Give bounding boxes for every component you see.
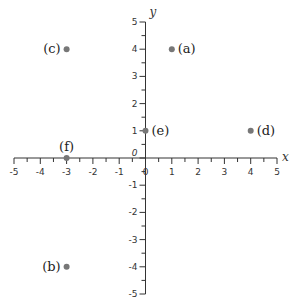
data-point — [143, 128, 149, 134]
point-label: (b) — [42, 259, 60, 274]
data-point — [248, 128, 254, 134]
x-tick-label: -3 — [62, 167, 71, 177]
point-label: (f) — [59, 139, 74, 154]
point-label: (c) — [43, 41, 60, 56]
x-tick-label: 1 — [169, 167, 175, 177]
y-tick-label: -3 — [129, 235, 138, 245]
point-label: (e) — [152, 123, 170, 138]
data-point — [64, 264, 70, 270]
y-tick-label: -1 — [129, 180, 138, 190]
x-tick-label: 4 — [248, 167, 254, 177]
y-tick-label: 5 — [132, 17, 138, 27]
y-axis-label: y — [149, 5, 157, 19]
point-label: (d) — [257, 123, 275, 138]
data-point — [64, 46, 70, 52]
x-axis-label: x — [282, 150, 289, 164]
x-tick-label: 2 — [195, 167, 201, 177]
y-tick-label: 3 — [132, 71, 138, 81]
data-point — [64, 155, 70, 161]
x-tick-label: -4 — [36, 167, 45, 177]
x-tick-label: -1 — [115, 167, 124, 177]
y-tick-label: -2 — [129, 207, 138, 217]
coordinate-plane: -5-4-3-2-1012345-5-4-3-2-1123450xy(a)(b)… — [0, 0, 293, 301]
x-tick-label: -5 — [10, 167, 19, 177]
y-tick-label: 1 — [132, 126, 138, 136]
data-point — [169, 46, 175, 52]
y-tick-label: 2 — [132, 99, 138, 109]
point-label: (a) — [178, 41, 196, 56]
x-tick-label: -2 — [88, 167, 97, 177]
y-tick-label: -5 — [129, 289, 138, 299]
y-tick-label: -4 — [129, 262, 138, 272]
origin-label: 0 — [132, 148, 138, 158]
x-tick-label: 5 — [274, 167, 280, 177]
y-tick-label: 4 — [132, 44, 138, 54]
x-tick-label: 3 — [222, 167, 228, 177]
